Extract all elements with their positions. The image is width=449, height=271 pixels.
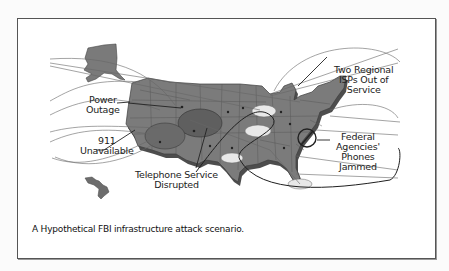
911-line2: Unavailable bbox=[80, 146, 134, 156]
regional-isps-label: Two Regional ISPs Out of Service bbox=[334, 65, 393, 95]
power-outage-label: Power Outage bbox=[86, 95, 120, 115]
west-impact-zone bbox=[145, 123, 185, 149]
hawaii-shape bbox=[85, 177, 109, 199]
telephone-service-label: Telephone Service Disrupted bbox=[135, 170, 218, 190]
power-outage-line2: Outage bbox=[86, 105, 120, 115]
isp-zone-1 bbox=[252, 105, 276, 117]
federal-agencies-label: Federal Agencies' Phones Jammed bbox=[336, 132, 380, 172]
telephone-line2: Disrupted bbox=[135, 180, 218, 190]
federal-line4: Jammed bbox=[336, 162, 380, 172]
alaska-shape bbox=[84, 44, 125, 82]
911-unavailable-label: 911 Unavailable bbox=[80, 136, 134, 156]
isps-line3: Service bbox=[334, 85, 393, 95]
figure-caption: A Hypothetical FBI infrastructure attack… bbox=[32, 224, 244, 234]
